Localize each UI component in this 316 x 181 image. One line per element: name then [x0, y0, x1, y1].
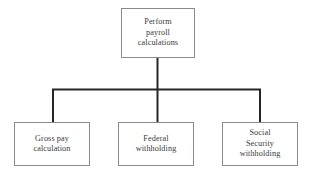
diagram-canvas: Perform payroll calculations Gross pay c… [0, 0, 316, 181]
node-federal-withholding: Federal withholding [118, 122, 194, 166]
node-social-security-withholding: Social Security withholding [222, 122, 298, 166]
node-perform-payroll-calculations: Perform payroll calculations [121, 8, 195, 58]
node-gross-pay-calculation: Gross pay calculation [14, 122, 90, 166]
node-label: Federal withholding [133, 134, 180, 155]
node-label: Social Security withholding [237, 128, 284, 159]
node-label: Perform payroll calculations [135, 17, 181, 48]
node-label: Gross pay calculation [30, 134, 73, 155]
